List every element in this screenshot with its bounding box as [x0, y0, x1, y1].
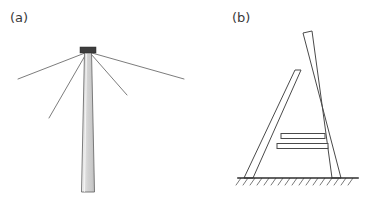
guy-wire-outer-right	[92, 53, 184, 79]
ground-hatch-mark	[334, 178, 339, 185]
guy-wire-outer-left	[18, 53, 85, 79]
a-frame-structure	[244, 31, 341, 178]
ground-hatch-mark	[327, 178, 332, 185]
ground	[236, 178, 358, 185]
mast-cap	[80, 47, 96, 53]
guyed-mast	[18, 47, 184, 192]
ground-hatch-mark	[236, 178, 241, 185]
mast-column	[82, 52, 95, 192]
a-frame-left-leg	[244, 70, 301, 178]
ground-hatch-mark	[264, 178, 269, 185]
ground-hatch-mark	[313, 178, 318, 185]
ground-hatch-mark	[271, 178, 276, 185]
panel-label-b: (b)	[232, 10, 250, 25]
ground-hatch-mark	[285, 178, 290, 185]
a-frame-right-leg	[303, 31, 341, 178]
a-frame-rung-upper	[281, 134, 325, 139]
a-frame-rung-lower	[277, 144, 328, 149]
ground-hatch-mark	[250, 178, 255, 185]
ground-hatch-mark	[257, 178, 262, 185]
ground-hatch-marks	[236, 178, 353, 185]
ground-hatch-mark	[243, 178, 248, 185]
ground-hatch-mark	[341, 178, 346, 185]
guy-wire-group	[18, 53, 184, 118]
panel-a: (a)	[10, 10, 184, 192]
panel-b: (b)	[232, 10, 358, 185]
panel-label-a: (a)	[10, 10, 28, 25]
guy-wire-inner-left	[49, 54, 86, 118]
a-frame-rung-group	[277, 134, 328, 149]
guy-wire-inner-right	[91, 54, 127, 95]
ground-hatch-mark	[320, 178, 325, 185]
ground-hatch-mark	[278, 178, 283, 185]
ground-hatch-mark	[292, 178, 297, 185]
ground-hatch-mark	[299, 178, 304, 185]
figure-two-panel-diagram: (a) (b)	[0, 0, 370, 198]
ground-hatch-mark	[306, 178, 311, 185]
ground-hatch-mark	[348, 178, 353, 185]
